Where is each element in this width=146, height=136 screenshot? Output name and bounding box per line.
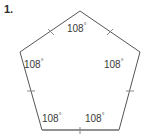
angle-bottom-right-value: 108: [85, 113, 102, 124]
angle-bottom-left-degree-symbol: °: [59, 112, 62, 119]
angle-right-value: 108: [104, 59, 121, 70]
angle-label-bottom-right: 108°: [85, 112, 105, 124]
angle-label-right: 108°: [104, 58, 124, 70]
pentagon-diagram: [0, 0, 146, 136]
angle-top-degree-symbol: °: [84, 22, 87, 29]
angle-left-value: 108: [24, 59, 41, 70]
angle-left-degree-symbol: °: [41, 58, 44, 65]
angle-bottom-left-value: 108: [42, 113, 59, 124]
angle-label-top: 108°: [67, 22, 87, 34]
angle-top-value: 108: [67, 23, 84, 34]
angle-label-bottom-left: 108°: [42, 112, 62, 124]
angle-right-degree-symbol: °: [121, 58, 124, 65]
angle-label-left: 108°: [24, 58, 44, 70]
pentagon-figure: 1. 108° 108° 108° 108° 108°: [0, 0, 146, 136]
angle-bottom-right-degree-symbol: °: [102, 112, 105, 119]
